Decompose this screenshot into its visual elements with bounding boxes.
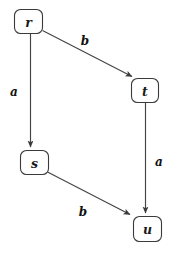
edge-r-to-s: a bbox=[10, 34, 30, 148]
edge-label-s-to-u: b bbox=[79, 205, 87, 219]
state-diagram-canvas: b a a b r t s u bbox=[0, 0, 181, 255]
graph-svg: b a a b r t s u bbox=[0, 0, 181, 255]
node-t[interactable]: t bbox=[132, 79, 159, 103]
node-u-label: u bbox=[143, 222, 152, 237]
node-s-label: s bbox=[31, 156, 38, 171]
edge-s-to-u-line bbox=[48, 172, 131, 215]
node-u[interactable]: u bbox=[134, 217, 162, 242]
node-r[interactable]: r bbox=[15, 10, 43, 34]
edge-r-to-t: b bbox=[43, 31, 133, 77]
edge-label-t-to-u: a bbox=[155, 155, 163, 169]
edge-label-r-to-t: b bbox=[81, 34, 89, 48]
edge-t-to-u: a bbox=[146, 103, 163, 214]
node-s[interactable]: s bbox=[21, 151, 49, 175]
edge-label-r-to-s: a bbox=[10, 85, 18, 99]
edge-s-to-u: b bbox=[48, 172, 131, 219]
node-t-label: t bbox=[142, 84, 148, 99]
